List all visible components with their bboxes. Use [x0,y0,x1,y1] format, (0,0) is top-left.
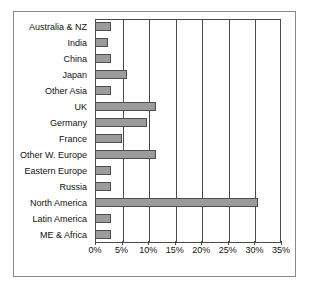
bar[interactable] [95,150,156,159]
bar-row [95,179,281,195]
category-label: Other Asia [0,83,91,99]
category-label: Russia [0,179,91,195]
bar[interactable] [95,134,122,143]
bar-row [95,163,281,179]
category-axis-labels: Australia & NZIndiaChinaJapanOther AsiaU… [0,19,91,243]
bar-row [95,115,281,131]
x-tick-label: 15% [166,245,184,255]
category-label: Latin America [0,211,91,227]
bar-row [95,83,281,99]
category-label: India [0,35,91,51]
bar[interactable] [95,166,111,175]
bar[interactable] [95,214,111,223]
bar[interactable] [95,54,111,63]
bar-row [95,195,281,211]
x-tick-label: 5% [115,245,128,255]
bar[interactable] [95,102,156,111]
category-label: UK [0,99,91,115]
bar-row [95,19,281,35]
bar[interactable] [95,38,108,47]
bar-row [95,211,281,227]
x-tick-label: 10% [139,245,157,255]
category-label: ME & Africa [0,227,91,243]
category-label: Australia & NZ [0,19,91,35]
bar-row [95,227,281,243]
category-label: Japan [0,67,91,83]
x-axis-ticks: 0%5%10%15%20%25%30%35% [0,245,309,265]
category-label: China [0,51,91,67]
bar[interactable] [95,182,111,191]
bar[interactable] [95,22,111,31]
x-tick-label: 30% [245,245,263,255]
bar-series [95,19,281,243]
x-tick-label: 35% [272,245,290,255]
bar-chart: Australia & NZIndiaChinaJapanOther AsiaU… [0,0,309,287]
bar-row [95,147,281,163]
category-label: Eastern Europe [0,163,91,179]
x-tick-label: 0% [88,245,101,255]
bar[interactable] [95,70,127,79]
bar-row [95,51,281,67]
bar-row [95,67,281,83]
bar[interactable] [95,230,111,239]
bar-row [95,99,281,115]
bar[interactable] [95,118,147,127]
bar-row [95,131,281,147]
category-label: Other W. Europe [0,147,91,163]
x-tick-label: 25% [219,245,237,255]
x-tick-label: 20% [192,245,210,255]
category-label: France [0,131,91,147]
category-label: North America [0,195,91,211]
bar[interactable] [95,86,111,95]
bar[interactable] [95,198,258,207]
category-label: Germany [0,115,91,131]
bar-row [95,35,281,51]
